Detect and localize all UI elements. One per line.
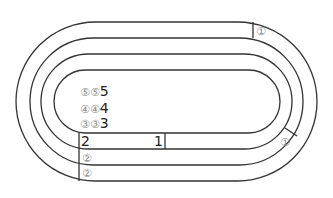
track-diagram xyxy=(0,0,333,198)
marker-lane-2b: ② xyxy=(82,168,92,179)
track-line-outer xyxy=(16,22,317,181)
infield-row-4: ④④4 xyxy=(80,100,109,116)
number-3: 3 xyxy=(100,115,109,131)
number-4: 4 xyxy=(100,100,109,116)
circle-5a: ⑤ xyxy=(80,86,90,99)
marker-lane-2a: ② xyxy=(82,153,92,164)
circle-5b: ⑤ xyxy=(90,86,100,99)
start-box-left: 2 xyxy=(81,134,90,148)
start-box-right: 1 xyxy=(154,134,163,148)
number-5: 5 xyxy=(100,83,109,99)
infield-row-5: ⑤⑤5 xyxy=(80,83,109,99)
marker-right-curve: ① xyxy=(280,137,290,148)
circle-3a: ③ xyxy=(80,118,90,131)
marker-top-right: ① xyxy=(256,26,266,37)
infield-row-3: ③③3 xyxy=(80,115,109,131)
circle-3b: ③ xyxy=(90,118,100,131)
